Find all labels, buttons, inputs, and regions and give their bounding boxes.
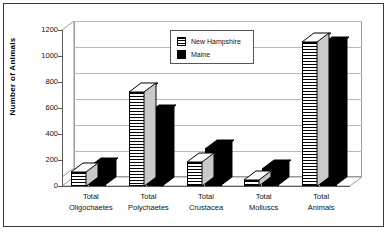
bar-new-hampshire: [302, 42, 319, 186]
legend-label: Maine: [191, 51, 210, 58]
x-axis-category-label: TotalAnimals: [284, 192, 358, 213]
x-axis-label-line: Total: [284, 192, 358, 203]
y-axis-tick-label: 200: [10, 156, 58, 164]
bar-side-face: [317, 33, 329, 186]
y-axis-tick: [58, 56, 62, 57]
bar-side-face: [104, 158, 116, 186]
legend-item-new-hampshire: New Hampshire: [177, 35, 253, 48]
bar-side-face: [162, 105, 174, 186]
bar-new-hampshire: [187, 162, 204, 186]
bar-side-face: [259, 171, 271, 186]
y-axis-tick-label: 1000: [10, 52, 58, 60]
y-axis-tick-label: 1200: [10, 26, 58, 34]
bar-side-face: [202, 153, 214, 186]
y-axis-tick-label: 800: [10, 78, 58, 86]
figure-frame: Number of Animals 020040060080010001200 …: [3, 3, 384, 227]
solid-swatch-icon: [177, 50, 186, 59]
bar-side-face: [144, 83, 156, 186]
striped-swatch-icon: [177, 37, 186, 46]
bar-new-hampshire: [71, 172, 88, 186]
y-axis-tick-labels: 020040060080010001200: [4, 30, 58, 186]
y-axis-tick-label: 400: [10, 130, 58, 138]
bar-side-face: [86, 163, 98, 186]
bar-side-face: [220, 140, 232, 186]
y-axis-tick: [58, 186, 62, 187]
y-axis-tick: [58, 82, 62, 83]
x-axis-line: [62, 186, 350, 187]
screenshot-root: Number of Animals 020040060080010001200 …: [0, 0, 389, 232]
grid-line: [74, 21, 362, 22]
legend-label: New Hampshire: [191, 38, 241, 45]
y-axis-line: [62, 30, 63, 186]
y-axis-tick: [58, 30, 62, 31]
y-axis-tick: [58, 134, 62, 135]
x-axis-label-line: Animals: [284, 203, 358, 214]
y-axis-tick: [58, 108, 62, 109]
bar-side-face: [335, 37, 347, 186]
bar-new-hampshire: [129, 92, 146, 186]
bar-side-face: [277, 160, 289, 186]
x-axis-category-labels: TotalOligochaetesTotalPolychaetesTotalCr…: [62, 190, 362, 224]
y-axis-tick-label: 600: [10, 104, 58, 112]
y-axis-tick-label: 0: [10, 182, 58, 190]
chart-legend: New Hampshire Maine: [170, 30, 254, 64]
legend-item-maine: Maine: [177, 48, 253, 61]
y-axis-tick: [58, 160, 62, 161]
bar-new-hampshire: [244, 180, 261, 186]
